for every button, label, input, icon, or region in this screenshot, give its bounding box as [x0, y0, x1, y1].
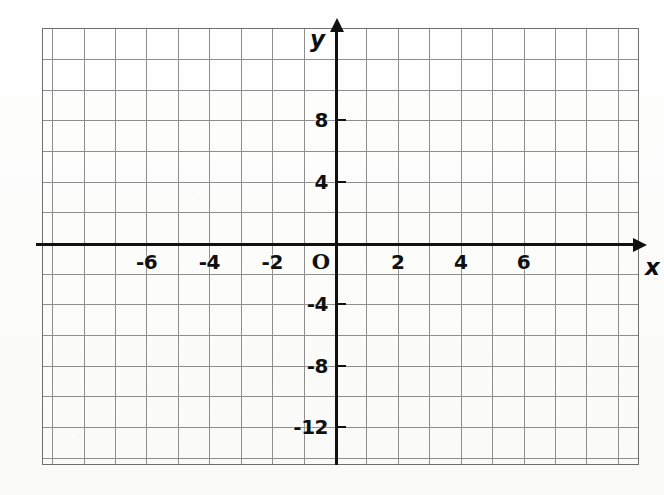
x-axis-arrow-icon: [633, 238, 647, 252]
x-tick-label: -2: [262, 252, 283, 272]
y-axis-label: y: [310, 28, 325, 51]
x-tick-label: 6: [517, 252, 530, 272]
x-tick-label: 4: [454, 252, 467, 272]
y-tick-label: 4: [315, 172, 328, 192]
y-tick-label: -12: [293, 417, 328, 437]
y-tick-label: -8: [307, 356, 328, 376]
y-axis-line: [335, 22, 338, 465]
y-tick-label: -4: [307, 294, 328, 314]
y-tick-mark: [336, 181, 346, 183]
x-tick-label: -6: [136, 252, 157, 272]
x-tick-label: 2: [391, 252, 404, 272]
y-tick-mark: [336, 119, 346, 121]
y-tick-mark: [336, 365, 346, 367]
y-tick-label: 8: [315, 110, 328, 130]
grid-border: [42, 28, 639, 465]
x-axis-label: x: [645, 256, 660, 279]
origin-label: O: [312, 251, 330, 272]
y-tick-mark: [336, 303, 346, 305]
y-tick-mark: [336, 426, 346, 428]
x-tick-label: -4: [199, 252, 220, 272]
coordinate-plane: -6-4-224684-4-8-12 O x y: [42, 28, 639, 465]
worksheet-page: -6-4-224684-4-8-12 O x y: [0, 0, 664, 495]
y-axis-arrow-icon: [330, 18, 344, 32]
